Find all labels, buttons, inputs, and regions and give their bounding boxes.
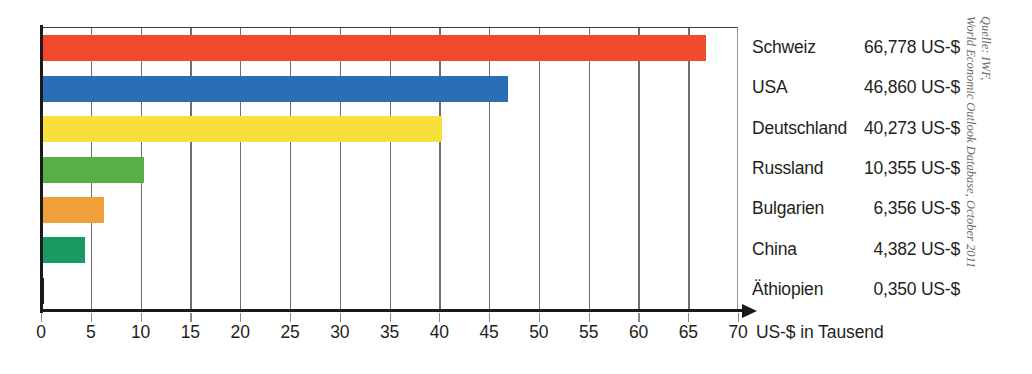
bar-russland	[41, 157, 144, 183]
gridline-20	[240, 28, 241, 310]
plot-area	[41, 27, 738, 310]
gridline-15	[190, 28, 191, 310]
country-label: China	[752, 239, 797, 260]
value-label: 66,778 US-$	[864, 37, 960, 58]
tickmark-35	[390, 313, 391, 322]
tickmark-30	[340, 313, 341, 322]
x-tick-label-45: 45	[480, 322, 499, 343]
tickmark-55	[589, 313, 590, 322]
table-row: China4,382 US-$	[752, 238, 960, 260]
x-axis-line	[40, 309, 746, 312]
value-label: 6,356 US-$	[873, 198, 960, 219]
tickmark-50	[539, 313, 540, 322]
value-label: 46,860 US-$	[864, 77, 960, 98]
table-row: USA46,860 US-$	[752, 77, 960, 99]
gridline-30	[340, 28, 341, 310]
bar-china	[41, 237, 85, 263]
country-label: Bulgarien	[752, 198, 824, 219]
gridline-45	[489, 28, 490, 310]
tickmark-65	[688, 313, 689, 322]
tickmark-10	[141, 313, 142, 322]
x-tick-label-20: 20	[231, 322, 250, 343]
value-label: 4,382 US-$	[873, 239, 960, 260]
x-axis-label: US-$ in Tausend	[756, 322, 884, 343]
x-tick-label-70: 70	[728, 322, 747, 343]
tickmark-20	[240, 313, 241, 322]
table-row: Russland10,355 US-$	[752, 158, 960, 180]
tickmark-45	[489, 313, 490, 322]
tickmark-60	[638, 313, 639, 322]
x-tick-label-0: 0	[36, 322, 46, 343]
x-tick-label-65: 65	[679, 322, 698, 343]
bar-schweiz	[41, 35, 706, 61]
value-table: Schweiz66,778 US-$USA46,860 US-$Deutschl…	[752, 27, 960, 310]
country-label: Russland	[752, 158, 823, 179]
value-label: 10,355 US-$	[864, 158, 960, 179]
tickmark-70	[738, 313, 739, 322]
x-tick-label-40: 40	[430, 322, 449, 343]
table-row: Bulgarien6,356 US-$	[752, 198, 960, 220]
bar-deutschland	[41, 116, 442, 142]
gridline-25	[290, 28, 291, 310]
tickmark-5	[91, 313, 92, 322]
source-credit: Quelle: IWF, World Economic Outlook Data…	[963, 16, 993, 356]
tickmark-0	[41, 313, 42, 322]
x-tick-label-55: 55	[579, 322, 598, 343]
value-label: 0,350 US-$	[873, 279, 960, 300]
x-tick-label-35: 35	[380, 322, 399, 343]
x-tick-label-5: 5	[86, 322, 96, 343]
country-label: Äthiopien	[752, 279, 823, 300]
x-tick-label-30: 30	[330, 322, 349, 343]
x-tick-label-15: 15	[181, 322, 200, 343]
gridline-50	[539, 28, 540, 310]
source-line-1: Quelle: IWF,	[978, 16, 993, 356]
x-tick-label-25: 25	[280, 322, 299, 343]
country-label: Schweiz	[752, 37, 816, 58]
gridline-40	[439, 28, 440, 310]
bar-chart: 0510152025303540455055606570 US-$ in Tau…	[0, 0, 1032, 374]
value-label: 40,273 US-$	[864, 118, 960, 139]
table-row: Schweiz66,778 US-$	[752, 36, 960, 58]
y-axis-line	[40, 25, 43, 313]
bar-usa	[41, 76, 508, 102]
x-tick-label-50: 50	[529, 322, 548, 343]
gridline-65	[688, 28, 689, 310]
gridline-60	[638, 28, 639, 310]
x-tick-label-10: 10	[131, 322, 150, 343]
table-row: Deutschland40,273 US-$	[752, 117, 960, 139]
table-row: Äthiopien0,350 US-$	[752, 279, 960, 301]
gridline-35	[390, 28, 391, 310]
tickmark-40	[439, 313, 440, 322]
country-label: Deutschland	[752, 118, 847, 139]
tickmark-15	[190, 313, 191, 322]
x-tick-label-60: 60	[629, 322, 648, 343]
tickmark-25	[290, 313, 291, 322]
gridline-55	[589, 28, 590, 310]
bar-bulgarien	[41, 197, 104, 223]
source-line-2: World Economic Outlook Database, October…	[963, 16, 978, 356]
country-label: USA	[752, 77, 787, 98]
